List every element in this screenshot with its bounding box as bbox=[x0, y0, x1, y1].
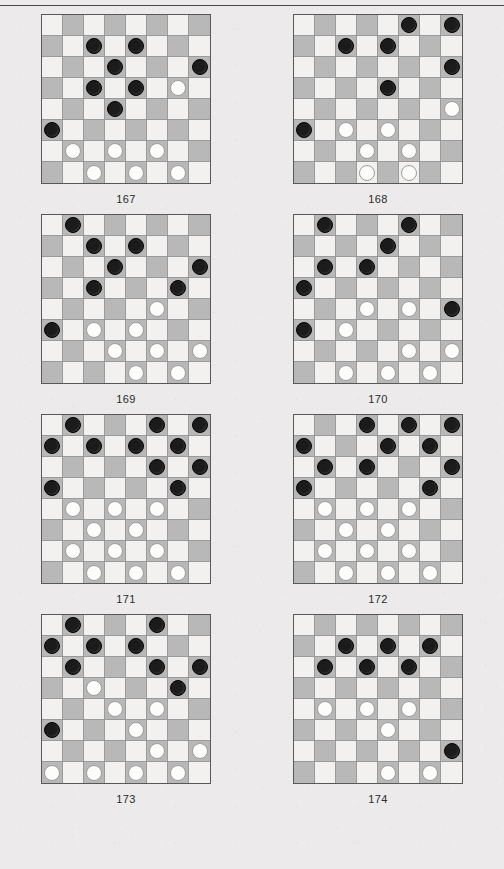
white-checker[interactable] bbox=[192, 743, 208, 759]
black-checker[interactable] bbox=[380, 38, 396, 54]
square-r5-c1[interactable] bbox=[315, 720, 336, 741]
square-r5-c1[interactable] bbox=[315, 120, 336, 141]
square-r2-c3[interactable] bbox=[105, 457, 126, 478]
square-r7-c3[interactable] bbox=[357, 162, 378, 183]
square-r1-c5[interactable] bbox=[399, 36, 420, 57]
checkerboard[interactable] bbox=[41, 414, 211, 584]
white-checker[interactable] bbox=[149, 143, 165, 159]
square-r0-c5[interactable] bbox=[147, 615, 168, 636]
white-checker[interactable] bbox=[192, 343, 208, 359]
square-r6-c4[interactable] bbox=[126, 541, 147, 562]
black-checker[interactable] bbox=[401, 217, 417, 233]
square-r7-c2[interactable] bbox=[336, 562, 357, 583]
black-checker[interactable] bbox=[149, 617, 165, 633]
square-r2-c6[interactable] bbox=[420, 57, 441, 78]
white-checker[interactable] bbox=[380, 365, 396, 381]
square-r0-c1[interactable] bbox=[63, 615, 84, 636]
square-r3-c2[interactable] bbox=[84, 478, 105, 499]
square-r5-c0[interactable] bbox=[294, 720, 315, 741]
square-r2-c2[interactable] bbox=[84, 457, 105, 478]
square-r5-c5[interactable] bbox=[399, 120, 420, 141]
square-r0-c7[interactable] bbox=[441, 415, 462, 436]
square-r2-c6[interactable] bbox=[168, 57, 189, 78]
square-r4-c2[interactable] bbox=[84, 99, 105, 120]
square-r0-c7[interactable] bbox=[189, 415, 210, 436]
square-r0-c3[interactable] bbox=[105, 615, 126, 636]
square-r6-c2[interactable] bbox=[84, 141, 105, 162]
black-checker[interactable] bbox=[422, 438, 438, 454]
square-r5-c5[interactable] bbox=[399, 720, 420, 741]
white-checker[interactable] bbox=[149, 701, 165, 717]
black-checker[interactable] bbox=[44, 438, 60, 454]
square-r4-c2[interactable] bbox=[336, 699, 357, 720]
square-r7-c3[interactable] bbox=[105, 562, 126, 583]
square-r4-c1[interactable] bbox=[63, 99, 84, 120]
checkerboard[interactable] bbox=[293, 614, 463, 784]
square-r0-c7[interactable] bbox=[441, 615, 462, 636]
square-r6-c3[interactable] bbox=[105, 741, 126, 762]
white-checker[interactable] bbox=[149, 543, 165, 559]
square-r1-c1[interactable] bbox=[63, 236, 84, 257]
white-checker[interactable] bbox=[317, 543, 333, 559]
white-checker[interactable] bbox=[86, 680, 102, 696]
black-checker[interactable] bbox=[317, 259, 333, 275]
square-r4-c7[interactable] bbox=[441, 299, 462, 320]
square-r1-c0[interactable] bbox=[294, 236, 315, 257]
square-r2-c6[interactable] bbox=[168, 457, 189, 478]
square-r4-c5[interactable] bbox=[399, 99, 420, 120]
black-checker[interactable] bbox=[65, 659, 81, 675]
white-checker[interactable] bbox=[338, 122, 354, 138]
square-r7-c0[interactable] bbox=[294, 562, 315, 583]
square-r1-c4[interactable] bbox=[126, 636, 147, 657]
white-checker[interactable] bbox=[338, 365, 354, 381]
white-checker[interactable] bbox=[359, 301, 375, 317]
square-r5-c5[interactable] bbox=[399, 520, 420, 541]
square-r7-c6[interactable] bbox=[168, 362, 189, 383]
black-checker[interactable] bbox=[338, 38, 354, 54]
square-r1-c2[interactable] bbox=[336, 36, 357, 57]
black-checker[interactable] bbox=[65, 417, 81, 433]
square-r2-c6[interactable] bbox=[168, 257, 189, 278]
square-r7-c7[interactable] bbox=[441, 562, 462, 583]
square-r7-c2[interactable] bbox=[336, 762, 357, 783]
square-r1-c1[interactable] bbox=[63, 36, 84, 57]
square-r5-c5[interactable] bbox=[147, 520, 168, 541]
square-r2-c2[interactable] bbox=[336, 657, 357, 678]
square-r0-c0[interactable] bbox=[294, 215, 315, 236]
black-checker[interactable] bbox=[359, 659, 375, 675]
square-r4-c0[interactable] bbox=[294, 299, 315, 320]
square-r5-c7[interactable] bbox=[441, 320, 462, 341]
square-r7-c1[interactable] bbox=[315, 162, 336, 183]
square-r6-c3[interactable] bbox=[105, 341, 126, 362]
square-r1-c2[interactable] bbox=[336, 436, 357, 457]
black-checker[interactable] bbox=[296, 438, 312, 454]
square-r0-c3[interactable] bbox=[357, 15, 378, 36]
square-r1-c3[interactable] bbox=[105, 636, 126, 657]
square-r2-c3[interactable] bbox=[357, 57, 378, 78]
square-r0-c0[interactable] bbox=[294, 615, 315, 636]
square-r1-c4[interactable] bbox=[378, 36, 399, 57]
black-checker[interactable] bbox=[380, 438, 396, 454]
square-r6-c7[interactable] bbox=[189, 541, 210, 562]
square-r0-c7[interactable] bbox=[189, 615, 210, 636]
white-checker[interactable] bbox=[401, 143, 417, 159]
square-r2-c7[interactable] bbox=[441, 257, 462, 278]
square-r0-c1[interactable] bbox=[315, 615, 336, 636]
square-r1-c3[interactable] bbox=[357, 36, 378, 57]
square-r7-c3[interactable] bbox=[105, 762, 126, 783]
white-checker[interactable] bbox=[401, 165, 417, 181]
square-r4-c2[interactable] bbox=[336, 499, 357, 520]
square-r2-c5[interactable] bbox=[399, 457, 420, 478]
square-r2-c0[interactable] bbox=[294, 457, 315, 478]
square-r0-c3[interactable] bbox=[105, 415, 126, 436]
white-checker[interactable] bbox=[359, 143, 375, 159]
square-r3-c3[interactable] bbox=[357, 278, 378, 299]
square-r3-c7[interactable] bbox=[441, 78, 462, 99]
square-r0-c1[interactable] bbox=[63, 215, 84, 236]
square-r7-c2[interactable] bbox=[84, 362, 105, 383]
square-r0-c6[interactable] bbox=[168, 215, 189, 236]
square-r4-c7[interactable] bbox=[189, 499, 210, 520]
black-checker[interactable] bbox=[359, 417, 375, 433]
square-r5-c1[interactable] bbox=[63, 120, 84, 141]
square-r7-c5[interactable] bbox=[399, 762, 420, 783]
